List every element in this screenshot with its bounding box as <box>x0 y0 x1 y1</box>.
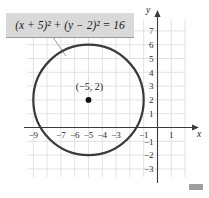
graph-figure: y x −9−7−6−5−4−3−11 7654321−1−2−3 (−5, 2… <box>0 0 209 198</box>
y-axis-arrow-icon <box>154 10 160 17</box>
y-tick-label: 3 <box>149 81 154 91</box>
y-axis-label: y <box>145 5 151 15</box>
x-tick-label: 1 <box>169 130 174 140</box>
y-tick-label: 4 <box>149 68 154 78</box>
y-tick-label: 2 <box>149 95 154 105</box>
x-tick-label: −6 <box>70 130 80 140</box>
x-tick-label: −5 <box>84 130 94 140</box>
center-point-label: (−5, 2) <box>76 81 103 93</box>
y-tick-label: −3 <box>144 164 154 174</box>
y-tick-label: 5 <box>149 54 154 64</box>
x-tick-label: −7 <box>56 130 66 140</box>
center-point-dot <box>86 97 92 103</box>
callout-underline <box>6 37 134 38</box>
x-tick-label: −4 <box>98 130 108 140</box>
x-tick-label: −9 <box>29 130 39 140</box>
x-tick-label: −3 <box>111 130 121 140</box>
y-tick-label: 7 <box>149 26 154 36</box>
page-marker <box>189 184 203 190</box>
y-tick-label: −1 <box>144 137 154 147</box>
equation-callout: (x + 5)² + (y − 2)² = 16 <box>6 13 134 37</box>
y-tick-label: 1 <box>149 109 154 119</box>
x-axis-label: x <box>196 129 202 139</box>
y-tick-label: −2 <box>144 150 154 160</box>
y-tick-label: 6 <box>149 40 154 50</box>
equation-text: (x + 5)² + (y − 2)² = 16 <box>6 13 134 37</box>
grid-lines <box>27 19 186 177</box>
